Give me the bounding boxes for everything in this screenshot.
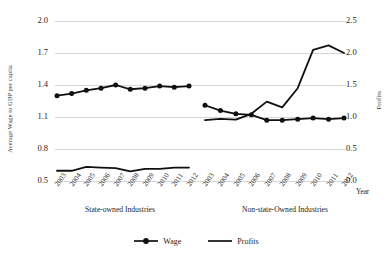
x-axis-title: Year — [356, 188, 369, 196]
data-point-wage-group1-1 — [218, 108, 223, 113]
legend-item-wage[interactable]: Wage — [133, 236, 181, 246]
data-point-wage-group0-1 — [69, 91, 74, 96]
y-tick-left-4: 0.8 — [24, 144, 48, 153]
y-tick-left-5: 0.5 — [24, 176, 48, 185]
data-point-wage-group0-2 — [84, 88, 89, 93]
y-tick-right-1: 2.0 — [346, 48, 370, 57]
data-point-wage-group0-7 — [157, 84, 162, 89]
y-axis-right-title: Profits — [372, 60, 386, 140]
group-label-non-state-owned: Non-state-Owned Industries — [200, 205, 370, 214]
legend-label-wage: Wage — [163, 237, 181, 246]
y-tick-left-3: 1.1 — [24, 112, 48, 121]
y-axis-right-ticks: 2.5 2.0 1.5 1.0 0.5 0.0 — [346, 0, 372, 259]
y-axis-left-title: Average Wage to GDP per capita — [2, 34, 16, 184]
y-tick-right-2: 1.5 — [346, 80, 370, 89]
data-point-wage-group1-5 — [280, 118, 285, 123]
legend-marker-line-icon — [133, 236, 159, 246]
series-line-profits-group1 — [205, 45, 344, 120]
y-tick-left-2: 1.4 — [24, 80, 48, 89]
data-point-wage-group1-2 — [233, 111, 238, 116]
data-point-wage-group0-8 — [172, 85, 177, 90]
y-tick-right-0: 2.5 — [346, 16, 370, 25]
y-tick-right-4: 0.5 — [346, 144, 370, 153]
data-point-wage-group0-6 — [143, 86, 148, 91]
legend-label-profits: Profits — [237, 237, 258, 246]
series-line-profits-group0 — [57, 167, 189, 171]
plot-area — [55, 21, 346, 181]
y-tick-right-3: 1.0 — [346, 112, 370, 121]
data-point-wage-group1-7 — [311, 116, 316, 121]
legend-line-icon — [207, 236, 233, 246]
series-line-wage-group1 — [205, 105, 344, 120]
data-point-wage-group1-4 — [264, 118, 269, 123]
data-point-wage-group0-4 — [113, 83, 118, 88]
data-point-wage-group1-8 — [326, 117, 331, 122]
data-point-wage-group0-3 — [99, 86, 104, 91]
group-label-state-owned: State-owned Industries — [40, 205, 200, 214]
data-point-wage-group0-5 — [128, 87, 133, 92]
data-point-wage-group0-9 — [187, 84, 192, 89]
data-point-wage-group1-0 — [203, 103, 208, 108]
chart-root: Average Wage to GDP per capita Profits 2… — [0, 0, 392, 259]
y-axis-left-ticks: 2.0 1.7 1.4 1.1 0.8 0.5 — [24, 0, 48, 259]
legend-item-profits[interactable]: Profits — [207, 236, 258, 246]
legend: Wage Profits — [0, 236, 392, 246]
data-point-wage-group1-9 — [342, 116, 347, 121]
series-line-wage-group0 — [57, 85, 189, 96]
y-tick-left-0: 2.0 — [24, 16, 48, 25]
data-point-wage-group0-0 — [55, 93, 60, 98]
series-lines — [55, 21, 346, 181]
y-tick-left-1: 1.7 — [24, 48, 48, 57]
data-point-wage-group1-6 — [295, 117, 300, 122]
